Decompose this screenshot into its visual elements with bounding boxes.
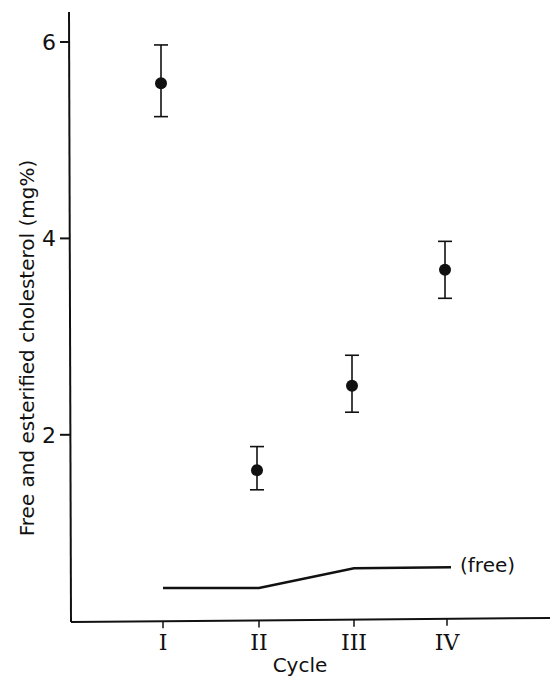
mean-marker (251, 464, 263, 476)
x-tick-label: II (250, 630, 267, 655)
x-axis-title: Cycle (273, 653, 328, 677)
cholesterol-chart: 246 IIIIIIIV (free) Cycle Free and ester… (0, 0, 559, 695)
y-axis-title: Free and esterified cholesterol (mg%) (15, 160, 39, 536)
x-ticks: IIIIIIIV (159, 619, 461, 655)
mean-marker (439, 264, 451, 276)
data-point-III (345, 355, 359, 412)
data-point-IV (438, 241, 452, 298)
y-tick-label: 6 (42, 30, 56, 55)
mean-marker (346, 380, 358, 392)
y-ticks: 246 (42, 30, 70, 448)
data-point-II (250, 447, 264, 490)
y-tick-label: 4 (42, 226, 56, 251)
free-line (163, 567, 451, 588)
y-tick-label: 2 (42, 423, 56, 448)
y-axis (69, 12, 71, 622)
x-axis (71, 618, 550, 622)
x-tick-label: III (341, 630, 367, 655)
x-tick-label: I (159, 630, 168, 655)
free-annotation: (free) (460, 553, 515, 577)
x-tick-label: IV (435, 630, 461, 655)
free-cholesterol-line (163, 567, 451, 588)
data-point-I (154, 45, 168, 117)
mean-marker (155, 77, 167, 89)
axes (69, 12, 550, 622)
data-points (154, 45, 452, 490)
